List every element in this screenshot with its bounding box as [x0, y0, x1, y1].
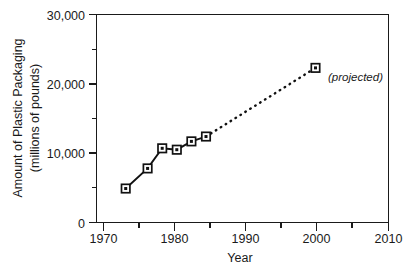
- data-point-marker: [187, 137, 195, 145]
- series-projected: [206, 68, 316, 137]
- x-axis-ticks: [104, 223, 389, 231]
- y-tick-label-10000: 10,000: [47, 147, 85, 161]
- y-tick-label-0: 0: [78, 217, 85, 231]
- y-axis-ticks: [89, 15, 97, 223]
- x-axis-tick-labels: 1970 1980 1990 2000 2010: [90, 232, 403, 246]
- x-tick-label-2010: 2010: [375, 232, 403, 246]
- x-tick-label-1990: 1990: [232, 232, 260, 246]
- plot-frame: [97, 15, 389, 223]
- y-tick-label-20000: 20,000: [47, 78, 85, 92]
- data-point-marker: [158, 144, 166, 152]
- x-tick-label-1980: 1980: [161, 232, 189, 246]
- y-axis-title-line2: (millions of pounds): [28, 64, 42, 172]
- data-point-marker: [173, 146, 181, 154]
- plastic-packaging-line-chart: 30,000 20,000 10,000 0 1970 1980 1990 20…: [0, 0, 412, 272]
- y-axis-tick-labels: 30,000 20,000 10,000 0: [47, 9, 85, 231]
- y-axis-title: Amount of Plastic Packaging (millions of…: [11, 38, 42, 197]
- data-point-marker: [202, 132, 210, 140]
- data-point-marker: [143, 164, 151, 172]
- data-point-marker: [311, 64, 319, 72]
- data-point-marker: [122, 184, 130, 192]
- projected-annotation: (projected): [328, 71, 383, 83]
- x-axis-title: Year: [227, 251, 252, 265]
- x-tick-label-2000: 2000: [303, 232, 331, 246]
- y-tick-label-30000: 30,000: [47, 9, 85, 23]
- y-axis-title-line1: Amount of Plastic Packaging: [11, 38, 25, 197]
- x-tick-label-1970: 1970: [90, 232, 118, 246]
- chart-container: 30,000 20,000 10,000 0 1970 1980 1990 20…: [0, 0, 412, 272]
